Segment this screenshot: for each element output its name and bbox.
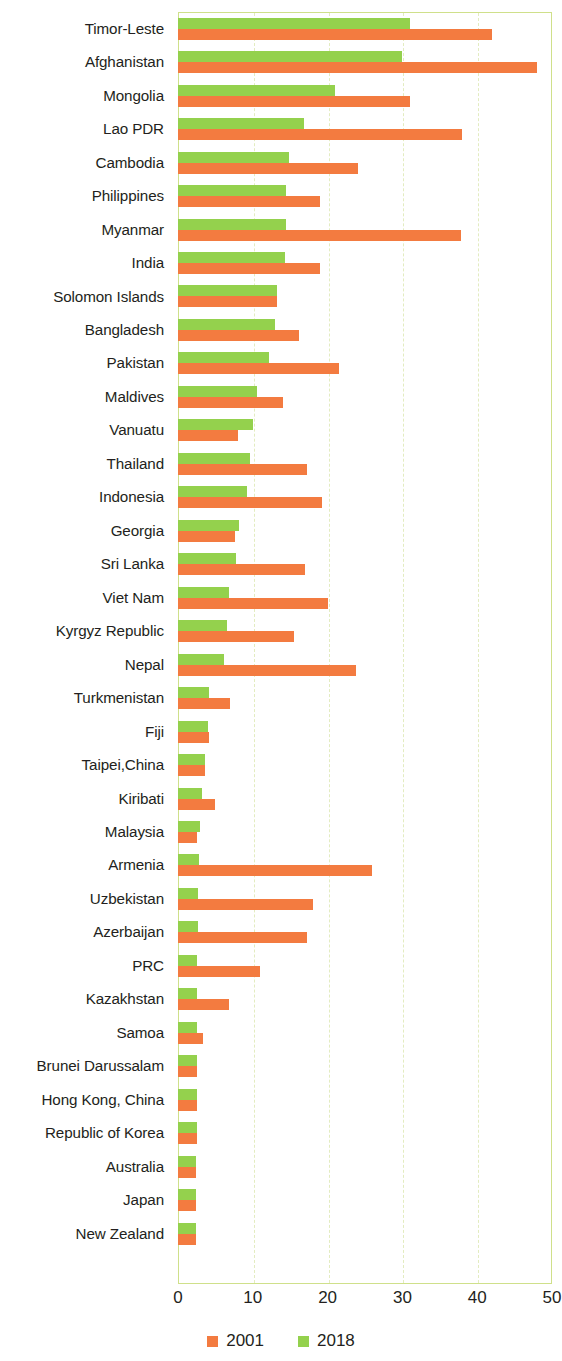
category-label: Pakistan — [0, 355, 172, 371]
chart-row: Viet Nam — [0, 581, 562, 614]
bar-2018 — [178, 386, 257, 397]
bar-group — [178, 681, 552, 714]
bar-2001 — [178, 330, 299, 341]
chart-row: Pakistan — [0, 347, 562, 380]
bar-2001 — [178, 363, 339, 374]
chart-row: Philippines — [0, 179, 562, 212]
bars-cell — [172, 1083, 562, 1116]
chart-row: Bangladesh — [0, 313, 562, 346]
bar-2001 — [178, 1234, 196, 1245]
category-label: PRC — [0, 958, 172, 974]
chart-row: Republic of Korea — [0, 1116, 562, 1149]
bar-2018 — [178, 419, 253, 430]
bar-group — [178, 782, 552, 815]
bar-2001 — [178, 966, 260, 977]
bar-group — [178, 581, 552, 614]
category-label: Timor-Leste — [0, 21, 172, 37]
bar-2018 — [178, 654, 224, 665]
bars-cell — [172, 782, 562, 815]
chart-row: Lao PDR — [0, 112, 562, 145]
chart-row: Kazakhstan — [0, 983, 562, 1016]
bar-2001 — [178, 1100, 197, 1111]
category-label: Solomon Islands — [0, 289, 172, 305]
bar-group — [178, 447, 552, 480]
bar-2018 — [178, 955, 197, 966]
bar-group — [178, 481, 552, 514]
bar-2001 — [178, 598, 328, 609]
bar-2001 — [178, 62, 537, 73]
bar-group — [178, 313, 552, 346]
bar-2001 — [178, 29, 492, 40]
bar-2018 — [178, 1223, 196, 1234]
category-label: Bangladesh — [0, 322, 172, 338]
bars-cell — [172, 916, 562, 949]
bars-cell — [172, 213, 562, 246]
bars-cell — [172, 1150, 562, 1183]
category-label: Kyrgyz Republic — [0, 623, 172, 639]
bars-cell — [172, 949, 562, 982]
bar-2001 — [178, 564, 305, 575]
bar-2018 — [178, 319, 275, 330]
chart-row: Nepal — [0, 648, 562, 681]
chart-row: Uzbekistan — [0, 882, 562, 915]
bars-cell — [172, 112, 562, 145]
bars-cell — [172, 1183, 562, 1216]
category-label: Nepal — [0, 657, 172, 673]
bar-group — [178, 45, 552, 78]
category-label: Turkmenistan — [0, 690, 172, 706]
category-label: India — [0, 255, 172, 271]
bar-2001 — [178, 430, 238, 441]
chart-row: Japan — [0, 1183, 562, 1216]
bars-cell — [172, 12, 562, 45]
bar-2001 — [178, 129, 462, 140]
legend-swatch-icon — [207, 1336, 218, 1347]
bar-2018 — [178, 1122, 197, 1133]
bar-2018 — [178, 888, 198, 899]
bar-2018 — [178, 352, 269, 363]
bar-group — [178, 648, 552, 681]
bar-2018 — [178, 1055, 197, 1066]
category-label: Cambodia — [0, 155, 172, 171]
bar-2001 — [178, 999, 229, 1010]
chart-row: Hong Kong, China — [0, 1083, 562, 1116]
bars-cell — [172, 581, 562, 614]
bar-2018 — [178, 1156, 196, 1167]
bar-2001 — [178, 1133, 197, 1144]
bar-group — [178, 414, 552, 447]
bars-cell — [172, 1016, 562, 1049]
bar-2001 — [178, 196, 320, 207]
bar-2018 — [178, 1089, 197, 1100]
bar-group — [178, 1050, 552, 1083]
bars-cell — [172, 1050, 562, 1083]
bar-2018 — [178, 219, 286, 230]
bars-cell — [172, 313, 562, 346]
category-label: Brunei Darussalam — [0, 1058, 172, 1074]
bar-group — [178, 1183, 552, 1216]
bars-cell — [172, 447, 562, 480]
bars-cell — [172, 815, 562, 848]
chart-row: Timor-Leste — [0, 12, 562, 45]
category-label: Vanuatu — [0, 422, 172, 438]
chart-row: Brunei Darussalam — [0, 1050, 562, 1083]
chart-legend: 20012018 — [0, 1331, 562, 1351]
legend-item[interactable]: 2018 — [298, 1331, 355, 1351]
category-label: Myanmar — [0, 222, 172, 238]
chart-row: Armenia — [0, 849, 562, 882]
legend-item[interactable]: 2001 — [207, 1331, 264, 1351]
bar-group — [178, 179, 552, 212]
chart-row: Taipei,China — [0, 748, 562, 781]
category-label: Mongolia — [0, 88, 172, 104]
bars-cell — [172, 614, 562, 647]
chart-row: Indonesia — [0, 481, 562, 514]
category-label: Malaysia — [0, 824, 172, 840]
category-label: Philippines — [0, 188, 172, 204]
x-axis-tick-label: 0 — [173, 1288, 182, 1308]
bar-2018 — [178, 185, 286, 196]
bar-2018 — [178, 587, 229, 598]
chart-row: Samoa — [0, 1016, 562, 1049]
bar-group — [178, 983, 552, 1016]
bar-2001 — [178, 799, 215, 810]
category-label: Maldives — [0, 389, 172, 405]
bar-2018 — [178, 921, 198, 932]
bar-group — [178, 246, 552, 279]
